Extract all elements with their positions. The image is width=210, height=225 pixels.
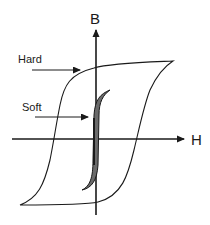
y-axis-label: B: [90, 10, 100, 27]
hysteresis-diagram: B H Hard Soft: [0, 0, 210, 225]
soft-hysteresis-loop: [82, 90, 110, 190]
x-axis-label: H: [191, 131, 202, 148]
hard-label: Hard: [18, 53, 42, 65]
soft-label: Soft: [22, 101, 42, 113]
